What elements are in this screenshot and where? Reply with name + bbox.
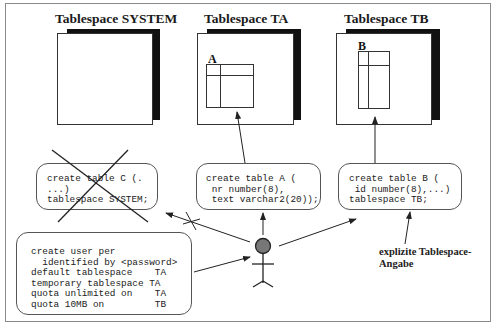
- crossed-out-icon: [52, 150, 148, 222]
- user-actor-icon: [252, 239, 274, 288]
- arrow-actor-to-c: [166, 213, 250, 242]
- connectors-layer: [0, 0, 497, 330]
- annotation-pointer: [405, 212, 410, 244]
- table-b-grid: [359, 52, 390, 109]
- arrow-blocked-icon: [183, 212, 200, 230]
- arrow-user-to-actor: [194, 257, 250, 272]
- arrow-actor-to-b: [279, 219, 356, 246]
- table-a-grid: [207, 65, 254, 108]
- arrow-a-to-ta: [237, 112, 245, 163]
